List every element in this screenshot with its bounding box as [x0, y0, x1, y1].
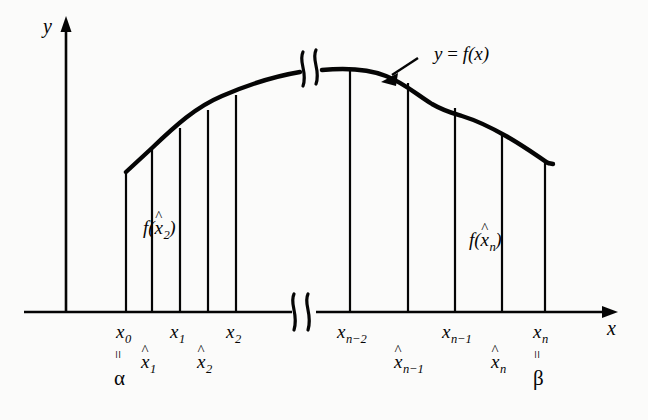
sample-label-xhatn-1: ^xn−1	[394, 352, 423, 371]
beta-label: β	[533, 366, 544, 391]
function-curve	[126, 69, 553, 172]
sample-label-xhatn: ^xn	[491, 352, 506, 371]
ordinate-lines	[126, 70, 545, 312]
xhat2-sub: 2	[206, 362, 212, 376]
equals-sign-alpha: =	[109, 350, 126, 358]
curve-break-icon	[302, 50, 318, 86]
y-axis	[61, 16, 72, 312]
x-axis-label: x	[607, 318, 616, 338]
xhatn1-hat-accent: ^	[395, 343, 402, 358]
x2-base: x	[226, 321, 234, 342]
partition-label-xn-2: xn−2	[337, 322, 366, 341]
xn-sub: n	[542, 332, 548, 346]
fnn-close: )	[495, 229, 501, 250]
fnn-sub: n	[490, 240, 496, 254]
x1-base: x	[170, 321, 178, 342]
partition-label-xn-1: xn−1	[442, 322, 471, 341]
function-value-label-2: f(^x2)	[143, 218, 176, 237]
xhat1-hat-accent: ^	[142, 343, 149, 358]
fnn-hat-accent: ^	[481, 221, 488, 236]
xhatn-sub: n	[500, 362, 506, 376]
xn2-sub: n−2	[346, 332, 367, 346]
xhatn-hatted-var: ^x	[491, 352, 499, 371]
y-axis-label: y	[43, 16, 52, 36]
xn1-sub: n−1	[451, 332, 472, 346]
xn1-base: x	[442, 321, 450, 342]
curve-eq-equals: =	[442, 43, 462, 64]
xhatn1-hatted-var: ^x	[394, 352, 402, 371]
xhat1-hatted-var: ^x	[141, 352, 149, 371]
function-value-label-n: f(^xn)	[469, 230, 502, 249]
x2-sub: 2	[235, 332, 241, 346]
x0-sub: 0	[125, 332, 131, 346]
sample-label-xhat1: ^x1	[141, 352, 156, 371]
xhat2-hat-accent: ^	[198, 343, 205, 358]
diagram-canvas	[0, 0, 648, 420]
fn2-sub: 2	[164, 228, 170, 242]
sample-label-xhat2: ^x2	[197, 352, 212, 371]
x1-sub: 1	[179, 332, 185, 346]
fnn-hatted-var: ^x	[481, 230, 489, 249]
xn2-base: x	[337, 321, 345, 342]
fn2-hat-accent: ^	[155, 209, 162, 224]
riemann-sum-figure: y x y = f(x) f(^x2) f(^xn) x0 x1 x2 xn−2…	[0, 0, 648, 420]
axis-break-icon	[293, 294, 310, 330]
partition-label-x1: x1	[170, 322, 185, 341]
xhat1-sub: 1	[150, 362, 156, 376]
x0-base: x	[116, 321, 124, 342]
equals-sign-beta: =	[528, 350, 545, 358]
partition-label-xn: xn	[533, 322, 548, 341]
fn2-close: )	[169, 217, 175, 238]
fn2-hatted-var: ^x	[155, 218, 163, 237]
partition-label-x2: x2	[226, 322, 241, 341]
xhatn1-sub: n−1	[403, 362, 424, 376]
curve-equation-label: y = f(x)	[434, 44, 489, 63]
alpha-label: α	[114, 366, 125, 391]
sample-ordinate-lines	[152, 83, 502, 312]
partition-label-x0: x0	[116, 322, 131, 341]
curve-eq-arg: (x)	[468, 43, 489, 64]
xhatn-hat-accent: ^	[492, 343, 499, 358]
xhat2-hatted-var: ^x	[197, 352, 205, 371]
x-axis	[24, 306, 618, 318]
xn-base: x	[533, 321, 541, 342]
